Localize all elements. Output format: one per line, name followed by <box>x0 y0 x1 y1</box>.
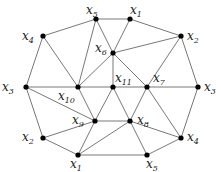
edge-x6-x2r <box>113 36 181 53</box>
node-x2r <box>178 33 183 38</box>
graph-diagram: x5x1x4x2x6x3x10x11x7x3x9x8x2x4x1x5 <box>0 0 221 172</box>
node-label-x1t: x1 <box>130 3 142 19</box>
edge-x1t-x2r <box>130 19 181 36</box>
edge-x11-x9 <box>95 87 113 121</box>
edge-x10-x9 <box>78 87 95 121</box>
node-label-x3r: x3 <box>204 80 216 96</box>
node-label-x9: x9 <box>72 113 84 129</box>
node-label-x4l: x4 <box>22 29 34 45</box>
node-x4l <box>40 33 45 38</box>
node-x6 <box>110 50 115 55</box>
edge-x1t-x6 <box>113 19 130 53</box>
node-label-x5t: x5 <box>86 3 98 19</box>
labels-layer: x5x1x4x2x6x3x10x11x7x3x9x8x2x4x1x5 <box>2 3 216 172</box>
edge-x4l-x5t <box>43 19 96 36</box>
node-x7 <box>144 84 149 89</box>
node-label-x11: x11 <box>115 71 132 87</box>
edge-x7-x4b <box>147 87 181 138</box>
node-x3r <box>195 84 200 89</box>
node-x1t <box>127 16 132 21</box>
node-label-x8: x8 <box>137 113 149 129</box>
node-label-x2b: x2 <box>22 130 34 146</box>
edge-x4b-x5b <box>147 138 181 155</box>
node-x9 <box>92 118 97 123</box>
edge-x11-x8 <box>113 87 130 121</box>
node-x3l <box>23 84 28 89</box>
node-x10 <box>75 84 80 89</box>
node-x11 <box>110 84 115 89</box>
node-label-x10: x10 <box>58 89 75 105</box>
node-label-x2r: x2 <box>187 29 199 45</box>
edge-x4l-x10 <box>43 36 78 87</box>
node-x4b <box>178 135 183 140</box>
edge-x2b-x9 <box>43 121 95 138</box>
node-label-x1b: x1 <box>70 157 82 172</box>
node-label-x4b: x4 <box>187 130 199 146</box>
edge-x8-x1b <box>78 121 130 155</box>
node-label-x6: x6 <box>95 41 107 57</box>
node-label-x5b: x5 <box>146 157 158 172</box>
node-label-x3l: x3 <box>2 80 14 96</box>
edge-x6-x10 <box>78 53 113 87</box>
edge-x2b-x1b <box>43 138 78 155</box>
node-x8 <box>127 118 132 123</box>
edge-x5t-x10 <box>78 19 96 87</box>
node-label-x7: x7 <box>153 71 166 87</box>
node-x2b <box>40 135 45 140</box>
